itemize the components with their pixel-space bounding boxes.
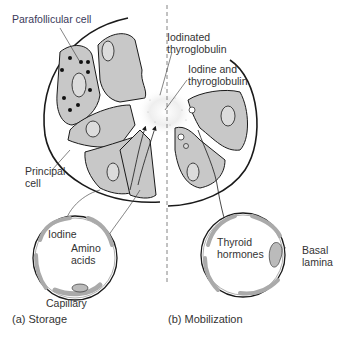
label-iodinated-thyroglobulin-1: Iodinated — [167, 31, 210, 43]
label-iodinated-thyroglobulin-2: thyroglobulin — [167, 43, 227, 55]
label-amino-acids-2: acids — [71, 254, 96, 266]
label-iodine-and-thyroglobulin-2: thyroglobulin — [188, 75, 248, 87]
label-basal-lamina-2: lamina — [302, 256, 333, 268]
caption-mobilization: (b) Mobilization — [168, 313, 243, 325]
label-thyroid-hormones-1: Thyroid — [217, 236, 252, 248]
label-amino-acids-1: Amino — [71, 242, 101, 254]
label-parafollicular-cell: Parafollicular cell — [12, 13, 91, 25]
caption-storage: (a) Storage — [12, 313, 67, 325]
label-thyroid-hormones-2: hormones — [217, 248, 264, 260]
label-iodine: Iodine — [48, 228, 77, 240]
label-principal-cell-2: cell — [25, 177, 41, 189]
label-capillary: Capillary — [46, 297, 87, 309]
label-iodine-and-thyroglobulin-1: Iodine and — [188, 63, 237, 75]
label-principal-cell-1: Principal — [25, 165, 65, 177]
label-basal-lamina-1: Basal — [302, 244, 328, 256]
